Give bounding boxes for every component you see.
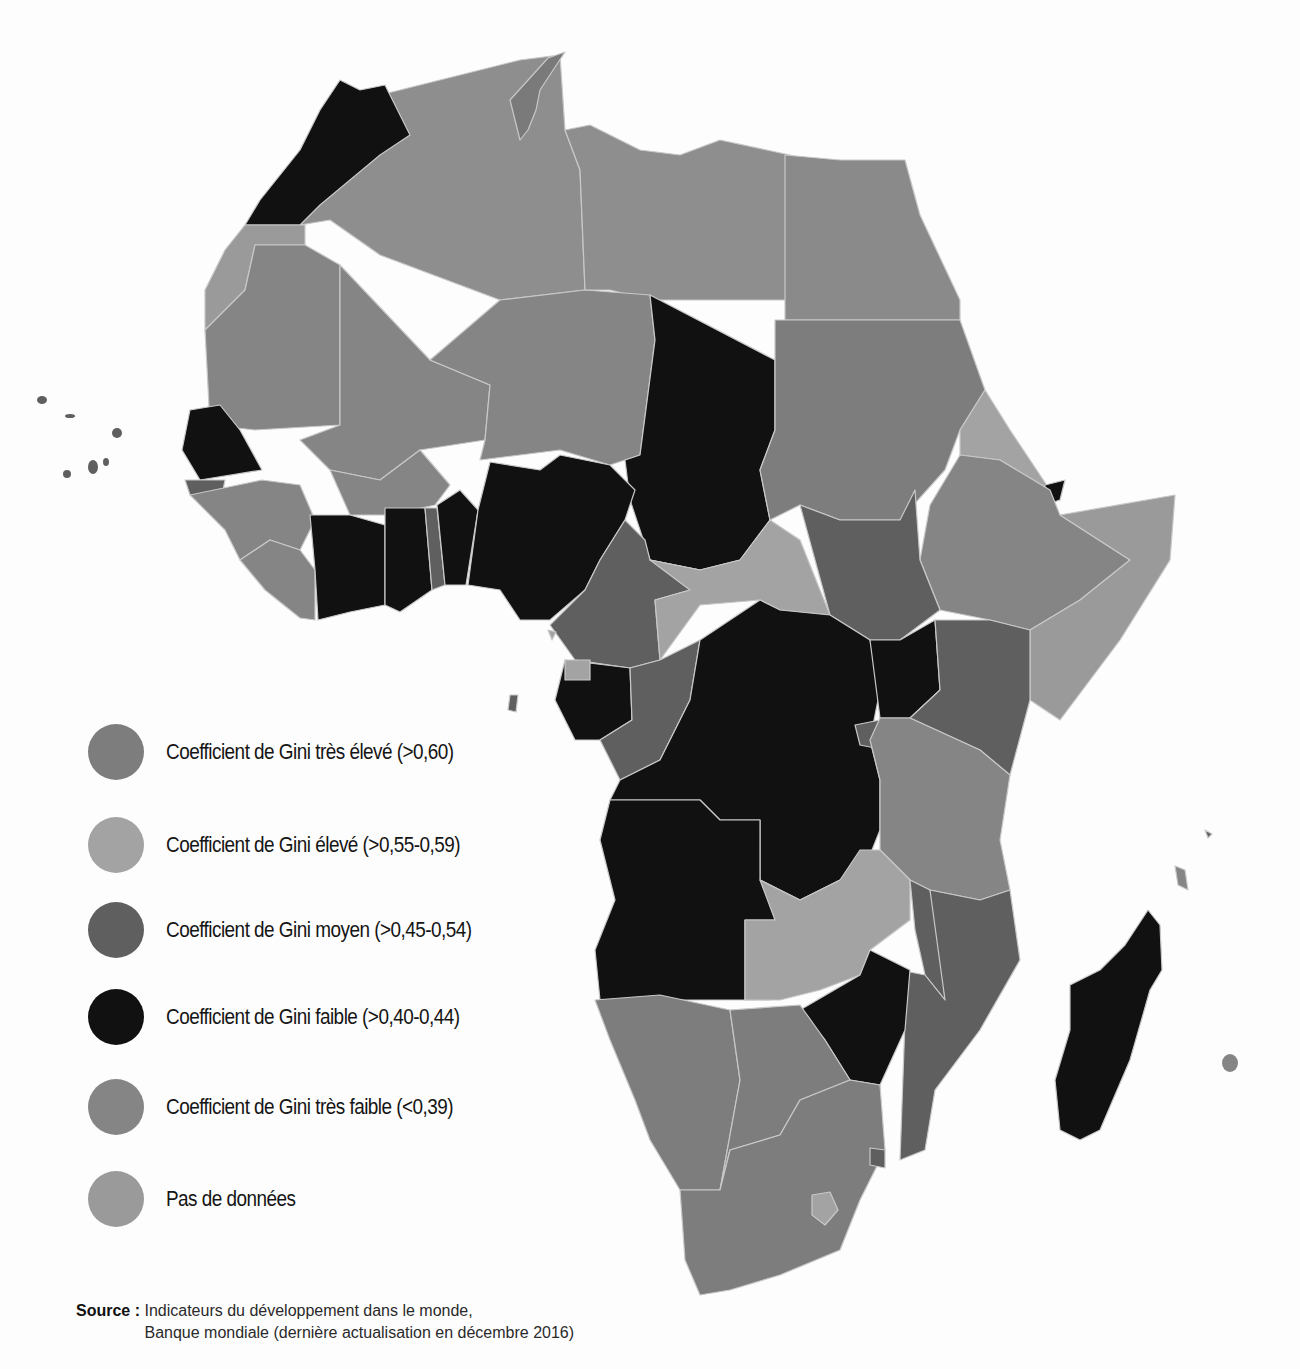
- region-bioko: [548, 630, 556, 640]
- region-mauritius: [1222, 1054, 1238, 1072]
- region-ghana: [385, 508, 432, 612]
- legend-item-faible: Coefficient de Gini faible (>0,40-0,44): [88, 987, 507, 1047]
- region-libya: [565, 125, 790, 300]
- source-label: Source :: [76, 1300, 140, 1322]
- region-madagascar: [1055, 910, 1162, 1140]
- legend-swatch-pas-de-donnees: [88, 1171, 144, 1227]
- region-comoros: [1175, 866, 1188, 890]
- legend-swatch-moyen: [88, 902, 144, 958]
- legend-swatch-eleve: [88, 817, 144, 873]
- legend-item-pas-de-donnees: Pas de données: [88, 1169, 317, 1229]
- legend-item-eleve: Coefficient de Gini élevé (>0,55-0,59): [88, 815, 508, 875]
- legend-swatch-tres-faible: [88, 1079, 144, 1135]
- legend-label: Pas de données: [166, 1186, 296, 1212]
- legend-swatch-tres-eleve: [88, 724, 144, 780]
- region-sierra-liberia: [240, 540, 315, 620]
- legend-label: Coefficient de Gini très faible (<0,39): [166, 1094, 453, 1120]
- region-eswatini: [870, 1148, 885, 1168]
- region-seychelles: [1205, 830, 1212, 838]
- legend-item-tres-eleve: Coefficient de Gini très élevé (>0,60): [88, 722, 501, 782]
- legend-swatch-faible: [88, 989, 144, 1045]
- legend-item-moyen: Coefficient de Gini moyen (>0,45-0,54): [88, 900, 521, 960]
- region-eq-guinea: [565, 660, 590, 680]
- legend-label: Coefficient de Gini moyen (>0,45-0,54): [166, 917, 472, 943]
- region-cape-verde: [37, 396, 122, 478]
- region-egypt: [785, 155, 960, 320]
- source-text: Indicateurs du développement dans le mon…: [144, 1300, 574, 1344]
- source-note: Source : Indicateurs du développement da…: [76, 1300, 574, 1344]
- region-cote-divoire: [310, 515, 385, 620]
- source-line-1: Indicateurs du développement dans le mon…: [144, 1302, 472, 1319]
- africa-gini-map: [0, 0, 1300, 1369]
- region-guinea: [190, 480, 315, 560]
- legend-item-tres-faible: Coefficient de Gini très faible (<0,39): [88, 1077, 500, 1137]
- legend-label: Coefficient de Gini élevé (>0,55-0,59): [166, 832, 460, 858]
- source-line-2: Banque mondiale (dernière actualisation …: [144, 1324, 574, 1341]
- legend-label: Coefficient de Gini très élevé (>0,60): [166, 739, 454, 765]
- region-sao-tome: [508, 695, 518, 712]
- legend-label: Coefficient de Gini faible (>0,40-0,44): [166, 1004, 459, 1030]
- region-namibia: [595, 995, 740, 1190]
